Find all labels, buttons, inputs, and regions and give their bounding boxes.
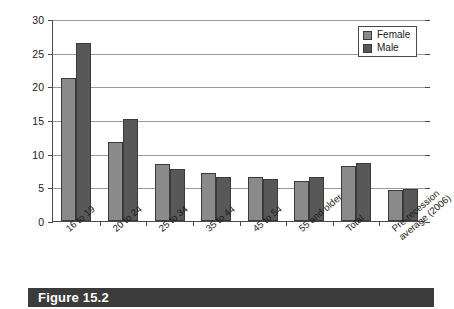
y-tick-label: 30 <box>32 15 44 26</box>
bar-female <box>61 78 76 221</box>
bar-group <box>100 20 147 221</box>
x-tick-mark <box>100 221 101 226</box>
chart-legend: Female Male <box>358 26 417 57</box>
bar-female <box>248 177 263 221</box>
x-tick-mark <box>146 221 147 226</box>
x-tick-mark <box>379 221 380 226</box>
bar-female <box>201 173 216 221</box>
figure-caption-banner: Figure 15.2 <box>28 288 434 307</box>
legend-item-male: Male <box>363 43 410 53</box>
y-tick-label: 25 <box>32 48 44 59</box>
y-tick-label: 0 <box>38 217 44 228</box>
figure-caption-text: Figure 15.2 <box>28 290 109 305</box>
legend-label-male: Male <box>377 43 399 53</box>
bar-group <box>240 20 287 221</box>
y-tick-label: 5 <box>38 183 44 194</box>
y-tick-label: 10 <box>32 149 44 160</box>
bar-group <box>193 20 240 221</box>
legend-item-female: Female <box>363 30 410 40</box>
bar-female <box>155 164 170 221</box>
legend-label-female: Female <box>377 30 410 40</box>
male-swatch-icon <box>363 44 372 53</box>
bar-group <box>53 20 100 221</box>
x-tick-mark <box>240 221 241 226</box>
x-tick-mark <box>193 221 194 226</box>
bar-group <box>286 20 333 221</box>
bar-group <box>146 20 193 221</box>
y-tick-label: 15 <box>32 116 44 127</box>
x-tick-mark <box>333 221 334 226</box>
y-tick-mark <box>48 222 53 223</box>
y-tick-label: 20 <box>32 82 44 93</box>
x-tick-mark <box>286 221 287 226</box>
bar-female <box>108 142 123 221</box>
bar-female <box>341 166 356 221</box>
female-swatch-icon <box>363 31 372 40</box>
bar-male <box>76 43 91 221</box>
